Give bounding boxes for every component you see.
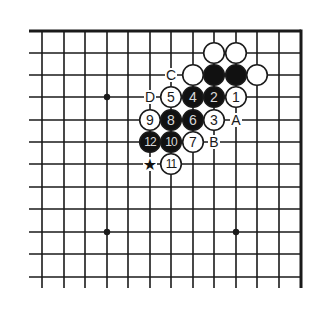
letter-mark-c: C bbox=[166, 67, 176, 83]
move-number: 1 bbox=[232, 89, 240, 105]
move-number: 8 bbox=[167, 112, 175, 128]
black-stone-8: 8 bbox=[161, 110, 182, 131]
white-stone bbox=[247, 65, 268, 86]
white-stone bbox=[183, 65, 204, 86]
move-number: 5 bbox=[167, 89, 175, 105]
move-number: 4 bbox=[189, 89, 197, 105]
letter-mark-d: D bbox=[145, 89, 155, 105]
black-stone-12: 12 bbox=[140, 132, 161, 153]
move-number: 10 bbox=[165, 135, 178, 149]
move-number: 11 bbox=[166, 157, 178, 171]
star-point bbox=[104, 94, 110, 100]
black-stone-2: 2 bbox=[204, 87, 225, 108]
white-stone bbox=[226, 43, 247, 64]
black-stone bbox=[226, 65, 247, 86]
move-number: 6 bbox=[189, 112, 197, 128]
white-stone-9: 9 bbox=[140, 110, 161, 131]
move-number: 3 bbox=[210, 112, 218, 128]
white-stone-11: 11 bbox=[161, 154, 182, 175]
black-stone-6: 6 bbox=[183, 110, 204, 131]
stones: 123456789101112 bbox=[140, 43, 268, 175]
move-number: 12 bbox=[144, 135, 157, 149]
letter-mark-b: B bbox=[209, 134, 218, 150]
white-stone bbox=[204, 43, 225, 64]
move-number: 7 bbox=[189, 134, 197, 150]
white-stone-5: 5 bbox=[161, 87, 182, 108]
letter-mark-a: A bbox=[231, 112, 241, 128]
star-mark-icon: ★ bbox=[143, 155, 157, 174]
white-stone-7: 7 bbox=[183, 132, 204, 153]
go-board: CDAB★ 123456789101112 bbox=[0, 0, 325, 324]
black-stone-10: 10 bbox=[161, 132, 182, 153]
black-stone-4: 4 bbox=[183, 87, 204, 108]
white-stone-1: 1 bbox=[226, 87, 247, 108]
move-number: 2 bbox=[210, 89, 218, 105]
star-point bbox=[104, 229, 110, 235]
move-number: 9 bbox=[146, 112, 154, 128]
black-stone bbox=[204, 65, 225, 86]
star-point bbox=[233, 229, 239, 235]
white-stone-3: 3 bbox=[204, 110, 225, 131]
